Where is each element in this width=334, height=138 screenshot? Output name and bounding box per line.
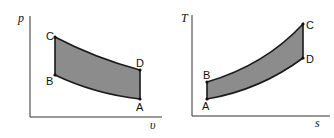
pv-label-d: D: [136, 57, 144, 69]
pv-label-a: A: [136, 101, 144, 113]
ts-label-a: A: [202, 100, 210, 112]
ts-cycle-area: [207, 24, 303, 99]
pv-label-b: B: [46, 75, 53, 87]
ts-point-d-dot: [301, 56, 304, 59]
ts-label-d: D: [306, 53, 314, 65]
ts-diagram: T s B A C D: [181, 11, 330, 130]
pv-x-label: υ: [150, 118, 156, 132]
diagram-canvas: p υ C B D A T s B A C D: [0, 0, 334, 138]
ts-label-c: C: [306, 19, 314, 31]
pv-label-c: C: [46, 30, 54, 42]
ts-y-label: T: [181, 11, 189, 25]
ts-x-label: s: [315, 116, 320, 130]
ts-point-c-dot: [301, 22, 304, 25]
ts-label-b: B: [203, 69, 210, 81]
pv-diagram: p υ C B D A: [17, 11, 162, 132]
pv-point-b-dot: [53, 73, 56, 76]
pv-y-label: p: [17, 11, 24, 25]
pv-cycle-area: [55, 37, 140, 99]
